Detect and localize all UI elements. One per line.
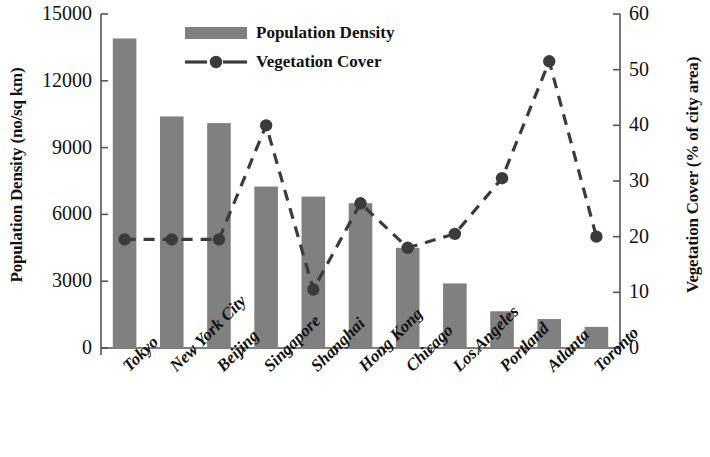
y-axis-left-tick-label: 3000 <box>52 270 92 290</box>
y-axis-right-tick-label: 30 <box>629 170 649 190</box>
y-axis-right-title-text: Vegetation Cover (% of city area) <box>683 57 703 293</box>
y-axis-right-tick-label: 20 <box>629 226 649 246</box>
y-axis-left-tick-label: 9000 <box>52 137 92 157</box>
vegetation-point-new-york-city <box>166 233 178 245</box>
y-axis-left-tick-label: 15000 <box>42 3 92 23</box>
y-axis-left-tick-label: 6000 <box>52 203 92 223</box>
y-axis-left-tick-label: 0 <box>82 337 92 357</box>
y-axis-right-title: Vegetation Cover (% of city area) <box>676 0 710 350</box>
y-axis-left-title-text: Population Density (no/sq km) <box>7 68 27 283</box>
vegetation-point-tokyo <box>118 233 130 245</box>
y-axis-right-tick-label: 10 <box>629 281 649 301</box>
legend-label-vegetation-cover: Vegetation Cover <box>256 52 381 72</box>
y-axis-right-tick-label: 50 <box>629 59 649 79</box>
legend-label-population-density: Population Density <box>256 23 394 43</box>
bar-tokyo <box>113 38 137 348</box>
legend-marker-vegetation-cover <box>210 56 222 68</box>
vegetation-point-hong-kong <box>354 197 366 209</box>
vegetation-point-portland <box>496 172 508 184</box>
vegetation-point-singapore <box>260 119 272 131</box>
vegetation-point-chicago <box>401 242 413 254</box>
vegetation-point-beijing <box>213 233 225 245</box>
y-axis-left-tick-label: 12000 <box>42 70 92 90</box>
vegetation-point-los-angeles <box>449 228 461 240</box>
y-axis-right-tick-label: 60 <box>629 3 649 23</box>
vegetation-point-shanghai <box>307 283 319 295</box>
vegetation-point-atlanta <box>543 55 555 67</box>
bars-group <box>113 38 608 348</box>
bar-singapore <box>254 187 278 348</box>
legend-swatch-population-density <box>185 27 247 39</box>
bar-new-york-city <box>160 116 184 348</box>
y-axis-left-title: Population Density (no/sq km) <box>0 0 34 350</box>
y-axis-right-tick-label: 40 <box>629 114 649 134</box>
legend-group <box>185 27 247 68</box>
vegetation-point-toronto <box>590 230 602 242</box>
chart-container: Population Density (no/sq km) Vegetation… <box>0 0 710 457</box>
